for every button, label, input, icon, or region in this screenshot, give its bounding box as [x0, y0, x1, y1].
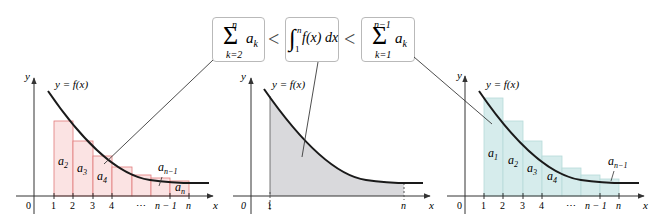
tick-3: 3: [90, 200, 95, 211]
tick-ellipsis: ⋯: [136, 200, 146, 211]
tick-2: 2: [70, 200, 75, 211]
tick-4: 4: [109, 200, 114, 211]
integral-test-diagram: n Σ k=2 ak < ∫ n 1 f(x) dx < n−1 Σ k=1 a…: [0, 0, 659, 220]
left-graph: y x 0 y = f(x) 1 2 3 4 ⋯ n − 1 n a2 a3 a…: [16, 70, 218, 214]
curve-label: y = f(x): [271, 78, 305, 91]
tick-1: 1: [481, 200, 486, 211]
tick-n-minus-1: n − 1: [155, 200, 177, 211]
x-axis-label: x: [642, 199, 648, 211]
tick-n-minus-1: n − 1: [585, 200, 607, 211]
y-axis-label: y: [240, 70, 246, 82]
origin-label: 0: [457, 200, 462, 211]
origin-label: 0: [26, 200, 31, 211]
tick-3: 3: [520, 200, 525, 211]
bar-a6: [581, 175, 600, 196]
y-axis-label: y: [24, 70, 30, 82]
tick-n: n: [186, 200, 191, 211]
middle-graph: y x 0 y = f(x) 1 n: [233, 70, 434, 214]
tick-ellipsis: ⋯: [566, 200, 576, 211]
x-axis-label: x: [212, 199, 218, 211]
tick-2: 2: [500, 200, 505, 211]
leader-line-lower-sum: [104, 60, 213, 164]
shaded-area: [270, 96, 404, 196]
tick-labels: 1 2 3 4 ⋯ n − 1 n: [51, 200, 191, 211]
right-graph: y x 0 y = f(x) 1 2 3 4 ⋯ n − 1 n a1 a2 a…: [447, 69, 648, 214]
bar-a5: [112, 167, 132, 196]
tick-n: n: [401, 200, 406, 211]
x-axis-label: x: [428, 199, 434, 211]
graphs-svg: y x 0 y = f(x) 1 2 3 4 ⋯ n − 1 n a2 a3 a…: [0, 0, 659, 220]
tick-1: 1: [267, 200, 272, 211]
curve-label: y = f(x): [54, 78, 88, 91]
left-bars: [54, 121, 189, 196]
label-a-n-minus-1: an−1: [158, 160, 177, 176]
tick-n: n: [616, 200, 621, 211]
origin-label: 0: [241, 200, 246, 211]
tick-4: 4: [539, 200, 544, 211]
y-axis-label: y: [456, 69, 462, 81]
leader-line-integral: [302, 62, 318, 157]
leader-line-upper-sum: [414, 57, 492, 124]
curve-label: y = f(x): [485, 78, 519, 91]
tick-labels: 1 2 3 4 ⋯ n − 1 n: [481, 200, 621, 211]
tick-1: 1: [51, 200, 56, 211]
bar-a5: [562, 168, 581, 196]
label-a-n-minus-1: an−1: [608, 154, 627, 170]
